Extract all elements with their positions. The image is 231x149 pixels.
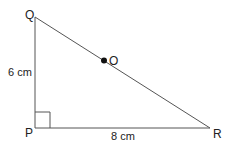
point-o-dot [101, 58, 107, 64]
vertex-label-q: Q [25, 8, 34, 22]
point-label-o: O [109, 54, 118, 68]
vertex-label-r: R [213, 127, 222, 141]
triangle-diagram: Q P R O 6 cm 8 cm [0, 0, 231, 149]
vertex-label-p: P [25, 126, 33, 140]
side-length-pr: 8 cm [111, 130, 135, 142]
right-angle-marker [35, 112, 50, 128]
side-length-pq: 6 cm [8, 66, 32, 78]
side-qr-hypotenuse [35, 17, 210, 128]
